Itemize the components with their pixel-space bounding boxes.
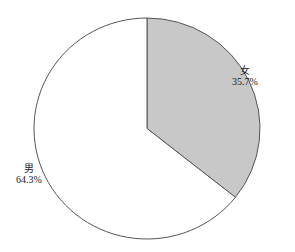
slice-percent-female: 35.7% (230, 76, 260, 87)
slice-label-male: 男 64.3% (13, 163, 45, 185)
slice-name-male: 男 (13, 163, 45, 174)
pie-chart (0, 0, 295, 252)
slice-percent-male: 64.3% (13, 174, 45, 185)
slice-label-female: 女 35.7% (230, 65, 260, 87)
slice-name-female: 女 (230, 65, 260, 76)
